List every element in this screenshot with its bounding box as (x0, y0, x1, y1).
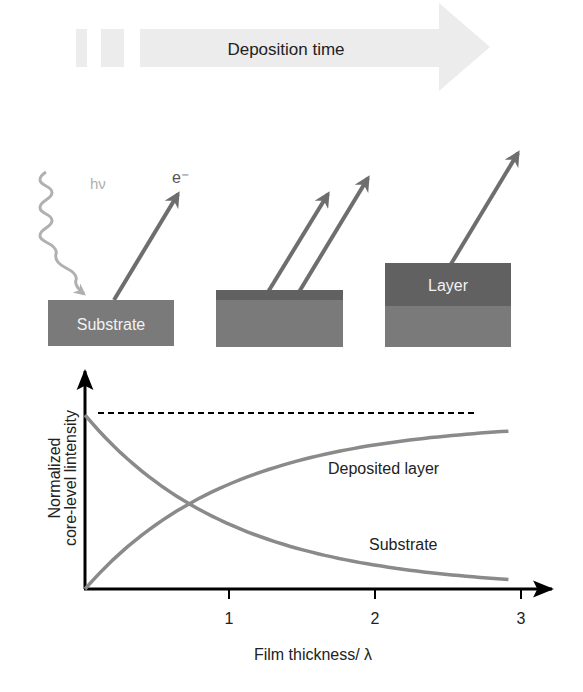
arrow-dash-2 (101, 29, 124, 67)
arrow-dash-1 (76, 29, 87, 67)
y-axis-label-line1: Normalized (46, 438, 63, 519)
electron-arrow-layer-icon (299, 178, 368, 292)
electron-label: e⁻ (172, 169, 189, 186)
deposited-layer-label: Deposited layer (328, 460, 440, 477)
photon-wavy-icon (40, 172, 84, 294)
x-axis-label: Film thickness/ λ (254, 646, 372, 663)
panel-thin-layer (216, 178, 368, 347)
electron-arrow-icon (114, 194, 178, 300)
deposition-time-label: Deposition time (227, 40, 344, 59)
y-axis-label-line2: core-level lintensity (62, 410, 79, 546)
x-tick-label-2: 2 (371, 610, 380, 627)
x-tick-label-1: 1 (225, 610, 234, 627)
photon-label: hν (90, 175, 106, 192)
electron-arrow-layer-icon (451, 153, 518, 264)
deposition-time-arrow: Deposition time (76, 3, 490, 91)
figure-canvas: Deposition time hν e⁻ Substrate Layer No… (0, 0, 583, 692)
deposited-layer-curve (85, 431, 508, 589)
thin-layer-strip (216, 290, 343, 300)
intensity-chart: Normalized core-level lintensity 1 2 3 F… (46, 371, 552, 663)
layer-block-label: Layer (428, 277, 469, 294)
substrate-curve (85, 415, 508, 579)
electron-arrow-substrate-icon (268, 194, 328, 292)
panel-thick-layer: Layer (385, 153, 518, 347)
panel-substrate-only: hν e⁻ Substrate (40, 169, 189, 346)
substrate-block-label: Substrate (77, 316, 146, 333)
x-tick-label-3: 3 (517, 610, 526, 627)
substrate-curve-label: Substrate (369, 536, 438, 553)
